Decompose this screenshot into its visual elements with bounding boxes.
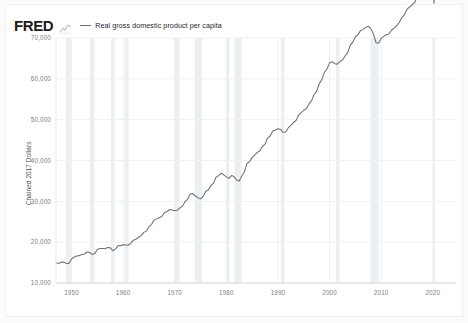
fred-line-mark-icon	[59, 20, 72, 31]
fred-chart-container: FRED Real gross domestic product per cap…	[0, 0, 468, 323]
y-tick-label: 60,000	[31, 75, 52, 82]
y-tick-labels-group: 10,00020,00030,00040,00050,00060,00070,0…	[31, 34, 52, 286]
x-tick-label: 2020	[425, 289, 440, 296]
legend-series-label: Real gross domestic product per capita	[95, 21, 222, 30]
x-tick-label: 1970	[167, 289, 182, 296]
x-tick-labels-group: 19501960197019801990200020102020	[64, 289, 440, 296]
x-tick-label: 1960	[116, 289, 131, 296]
y-tick-label: 10,000	[31, 279, 52, 286]
x-tick-label: 1950	[64, 289, 79, 296]
x-tick-label: 1980	[219, 289, 234, 296]
x-tick-label: 1990	[271, 289, 286, 296]
chart-header: FRED Real gross domestic product per cap…	[14, 17, 222, 33]
line-chart-svg: 10,00020,00030,00040,00050,00060,00070,0…	[0, 0, 468, 323]
fred-logo[interactable]: FRED	[14, 18, 53, 33]
series-line[interactable]	[56, 0, 456, 264]
y-tick-label: 30,000	[31, 198, 52, 205]
x-tick-label: 2010	[374, 289, 389, 296]
y-tick-label: 20,000	[31, 238, 52, 245]
legend-line-swatch	[80, 25, 91, 26]
y-tick-label: 40,000	[31, 157, 52, 164]
x-tick-label: 2000	[322, 289, 337, 296]
y-gridlines-group	[56, 38, 456, 283]
y-tick-label: 50,000	[31, 116, 52, 123]
series-lines-group	[56, 0, 456, 264]
plot-area: 10,00020,00030,00040,00050,00060,00070,0…	[0, 0, 468, 323]
chart-legend[interactable]: Real gross domestic product per capita	[80, 21, 222, 30]
y-tick-label: 70,000	[31, 34, 52, 41]
